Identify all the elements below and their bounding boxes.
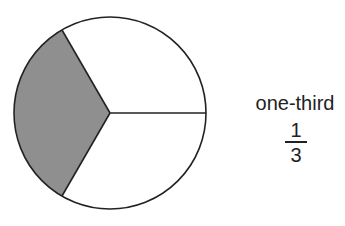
fraction: 1 3 [285, 120, 307, 165]
denominator: 3 [285, 145, 307, 165]
fraction-circle [0, 0, 230, 226]
numerator: 1 [285, 120, 307, 140]
fraction-bar [285, 141, 307, 143]
shaded-sector [14, 30, 110, 196]
fraction-word: one-third [255, 92, 335, 115]
